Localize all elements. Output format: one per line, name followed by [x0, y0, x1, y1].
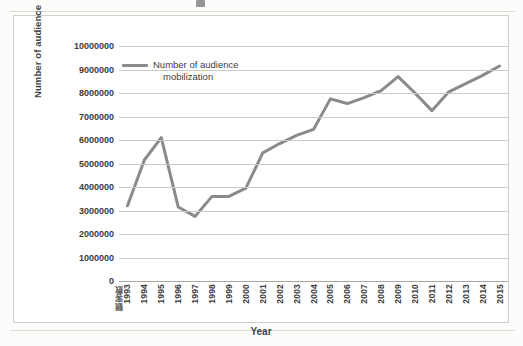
gridline [119, 46, 508, 47]
x-tick-label: 1993 [122, 284, 132, 304]
y-tick-label: 1000000 [79, 253, 114, 263]
gridline [119, 93, 508, 94]
y-tick-label: 5000000 [79, 159, 114, 169]
x-tick-label: 2002 [275, 284, 285, 304]
gridline [119, 234, 508, 235]
x-axis-title: Year [14, 326, 508, 337]
y-tick-label: 8000000 [79, 88, 114, 98]
legend-label-line1: Number of audience [153, 59, 239, 70]
x-axis-tick-labels: 1993199419951996199719981999200020012002… [119, 284, 508, 324]
x-tick-label: 2010 [410, 284, 420, 304]
x-tick-label: 1996 [173, 284, 183, 304]
x-tick-label: 2013 [461, 284, 471, 304]
legend-line-swatch [122, 64, 148, 67]
gridline [119, 211, 508, 212]
x-tick-label: 1998 [207, 284, 217, 304]
x-tick-label: 2007 [359, 284, 369, 304]
chart-frame: Number of audience 100000009000000800000… [13, 15, 509, 323]
x-tick-label: 2006 [342, 284, 352, 304]
y-tick-label: 9000000 [79, 65, 114, 75]
x-tick-label: 2009 [393, 284, 403, 304]
x-tick-label: 2008 [376, 284, 386, 304]
gridline [119, 164, 508, 165]
scan-rule-top [10, 11, 515, 12]
x-tick-label: 2015 [495, 284, 505, 304]
y-tick-label: 7000000 [79, 112, 114, 122]
y-tick-label: 2000000 [79, 229, 114, 239]
gridline [119, 258, 508, 259]
series-polyline [127, 66, 499, 216]
x-tick-label: 2001 [258, 284, 268, 304]
x-tick-label: 2011 [427, 284, 437, 303]
gridline [119, 187, 508, 188]
x-tick-label: 2003 [292, 284, 302, 304]
x-tick-label: 1997 [190, 284, 200, 304]
x-tick-label: 1995 [156, 284, 166, 304]
gridline [119, 117, 508, 118]
x-tick-label: 1999 [224, 284, 234, 304]
x-axis-baseline [119, 281, 508, 282]
y-tick-label: 6000000 [79, 135, 114, 145]
chart-legend: Number of audience mobilization [122, 59, 239, 82]
x-tick-label: 2005 [325, 284, 335, 304]
x-tick-label: 2012 [444, 284, 454, 304]
gridline [119, 140, 508, 141]
scan-artifact-mark [196, 0, 205, 7]
legend-label-line2: mobilization [153, 71, 239, 83]
y-tick-label: 10000000 [74, 41, 114, 51]
y-tick-label: 4000000 [79, 182, 114, 192]
y-axis-tick-labels: 1000000090000008000000700000060000005000… [34, 46, 114, 281]
x-tick-label: 2014 [478, 284, 488, 304]
legend-label: Number of audience mobilization [153, 59, 239, 82]
x-tick-label: 1994 [139, 284, 149, 304]
x-tick-label: 2000 [241, 284, 251, 304]
x-tick-label: 2004 [309, 284, 319, 304]
y-tick-label: 3000000 [79, 206, 114, 216]
